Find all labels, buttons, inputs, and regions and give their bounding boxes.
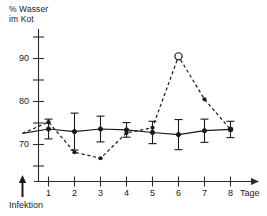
x-tick-label-4: 4 bbox=[120, 188, 134, 198]
x-tick-label-2: 2 bbox=[68, 188, 82, 198]
y-tick-label-80: 80 bbox=[11, 96, 29, 106]
y-axis-title: % Wasser im Kot bbox=[9, 5, 48, 25]
x-axis-arrowhead bbox=[251, 178, 259, 185]
y-tick-label-70: 70 bbox=[11, 139, 29, 149]
x-tick-label-1: 1 bbox=[42, 188, 56, 198]
series-infiziert-line bbox=[23, 56, 231, 158]
x-tick-label-3: 3 bbox=[94, 188, 108, 198]
series-infiziert-peak-marker bbox=[175, 53, 182, 60]
x-tick-label-6: 6 bbox=[172, 188, 186, 198]
x-tick-label-5: 5 bbox=[146, 188, 160, 198]
infection-arrow-icon bbox=[19, 175, 26, 197]
x-axis-unit-label: Tage bbox=[240, 188, 260, 198]
y-tick-label-90: 90 bbox=[11, 53, 29, 63]
x-tick-label-8: 8 bbox=[224, 188, 238, 198]
x-tick-label-7: 7 bbox=[198, 188, 212, 198]
chart-figure: % Wasser im Kot 90 80 70 1 2 3 4 5 6 7 8… bbox=[0, 0, 267, 216]
axes-group bbox=[19, 29, 259, 197]
infection-label: Infektion bbox=[9, 200, 43, 210]
series-infiziert bbox=[23, 53, 233, 161]
y-axis-title-line2: im Kot bbox=[9, 15, 48, 25]
chart-plot-area bbox=[0, 0, 267, 216]
series-kontrolle bbox=[23, 113, 235, 150]
